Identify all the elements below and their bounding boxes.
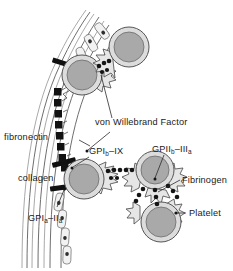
fibrinogen-bead	[171, 189, 176, 194]
bridge-bead	[102, 61, 107, 66]
label-gp1a-2a-main: GPI	[28, 213, 44, 223]
leader-dot-gp2b	[154, 178, 157, 181]
label-fibrinogen: Fibrinogen	[182, 175, 227, 185]
bridge-bead	[106, 169, 111, 174]
vwf-bead	[55, 121, 63, 129]
svg-text:GPIb–IX: GPIb–IX	[89, 146, 123, 157]
bridge-bead	[118, 168, 123, 173]
label-gp2b-3a-sub2: a	[188, 148, 192, 155]
label-gp1b-ix-main: GPI	[89, 146, 105, 156]
vwf-bead	[54, 88, 62, 96]
platelet-cytoplasm	[67, 60, 97, 90]
fibrinogen-bead	[137, 193, 142, 198]
leader-dot-platelet	[174, 211, 177, 214]
platelet-adhesion-diagram: fibronectin collagen von Willebrand Fact…	[0, 0, 233, 271]
vwf-bead	[56, 132, 64, 140]
fibrinogen-bead	[134, 199, 139, 204]
label-gp1b-ix: GPIb–IX	[89, 146, 123, 157]
platelet-cytoplasm	[146, 207, 176, 237]
bridge-bead	[100, 70, 104, 74]
label-gp1a-2a-sub2: a	[59, 217, 63, 224]
svg-text:GPIIb–IIIa: GPIIb–IIIa	[152, 144, 192, 155]
vwf-bead	[54, 99, 62, 107]
label-platelet: Platelet	[189, 208, 221, 218]
bridge-bead	[112, 168, 117, 173]
leader-dot-gp1a	[63, 188, 66, 191]
bridge-bead	[130, 168, 135, 173]
label-collagen: collagen	[18, 173, 53, 183]
bridge-bead	[105, 68, 109, 72]
bridge-bead	[97, 64, 102, 69]
bridge-bead	[107, 59, 112, 64]
label-gp1b-ix-tail: –IX	[109, 146, 123, 156]
pseudopod-left	[126, 202, 140, 224]
fibrinogen-bead	[141, 187, 146, 192]
label-gp1a-2a-mid: –II	[48, 213, 59, 223]
vwf-bead	[55, 110, 63, 118]
leader-dot-gp1b	[71, 167, 74, 170]
label-von-willebrand-factor: von Willebrand Factor	[95, 117, 188, 127]
label-gp2b-3a-mid: –III	[175, 144, 188, 154]
fibrinogen-bead	[155, 202, 160, 207]
fibrinogen-bead	[175, 195, 180, 200]
vwf-bead	[59, 154, 67, 162]
fibrinogen-bead	[153, 188, 158, 193]
label-fibronectin: fibronectin	[4, 132, 48, 142]
bridge-bead	[115, 176, 119, 180]
label-gp2b-3a-main: GPII	[152, 144, 171, 154]
platelet-cytoplasm	[114, 32, 144, 62]
bridge-bead	[109, 176, 113, 180]
bridge-bead	[124, 168, 129, 173]
label-gp2b-3a: GPIIb–IIIa	[152, 144, 192, 155]
platelet-cytoplasm	[69, 164, 99, 194]
fibrinogen-bead	[154, 195, 159, 200]
diagram-canvas: fibronectin collagen von Willebrand Fact…	[0, 0, 233, 271]
vwf-bead	[57, 143, 65, 151]
